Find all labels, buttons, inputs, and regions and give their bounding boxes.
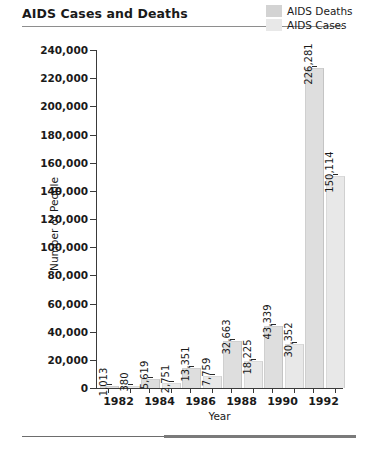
bar-value-label: 150,114: [324, 151, 335, 192]
y-tick-label: 220,000: [8, 72, 88, 84]
legend-swatch-icon: [266, 5, 282, 17]
x-tick-mark: [253, 388, 254, 393]
legend-label: AIDS Deaths: [287, 5, 353, 17]
x-axis-line: 198219841986198819901992: [96, 388, 343, 389]
bar-1988-cases[interactable]: 18,225: [244, 361, 263, 388]
plot-area: 1,0133805,6192,75113,3517,75932,66318,22…: [96, 50, 342, 388]
bar-value-label: 43,339: [262, 304, 273, 339]
bar-1992-cases[interactable]: 150,114: [326, 176, 345, 388]
y-tick-label: 240,000: [8, 44, 88, 56]
y-tick-mark: [90, 388, 96, 389]
bar-value-label: 7,759: [201, 358, 212, 387]
x-tick-mark: [212, 388, 213, 393]
y-tick-label: 0: [8, 382, 88, 394]
legend-item-2: AIDS Cases: [266, 18, 374, 32]
bar-group-1982: 1,013380: [100, 50, 138, 388]
x-tick-label-1990: 1990: [267, 395, 298, 408]
bar-1984-deaths[interactable]: 5,619: [141, 379, 160, 388]
bar-value-label: 30,352: [283, 323, 294, 358]
legend-label: AIDS Cases: [287, 19, 347, 31]
x-tick-mark: [335, 388, 336, 393]
bar-1990-cases[interactable]: 30,352: [285, 344, 304, 388]
legend-swatch-icon: [266, 19, 282, 31]
x-tick-mark: [231, 388, 232, 393]
x-tick-label-1988: 1988: [226, 395, 257, 408]
bar-1992-deaths[interactable]: 226,281: [305, 68, 324, 388]
x-tick-label-1992: 1992: [308, 395, 339, 408]
bar-1990-deaths[interactable]: 43,339: [264, 326, 283, 388]
page-title: AIDS Cases and Deaths: [22, 6, 188, 21]
x-tick-label-1982: 1982: [103, 395, 134, 408]
bar-group-1992: 226,281150,114: [305, 50, 343, 388]
x-tick-mark: [294, 388, 295, 393]
bar-value-label: 13,351: [180, 347, 191, 382]
x-tick-mark: [313, 388, 314, 393]
bar-group-1988: 32,66318,225: [223, 50, 261, 388]
legend-item-1: AIDS Deaths: [266, 4, 374, 18]
bar-1982-cases[interactable]: 380: [121, 386, 140, 388]
bar-1986-deaths[interactable]: 13,351: [182, 368, 201, 388]
bar-value-label: 1,013: [98, 367, 109, 396]
y-tick-label: 200,000: [8, 100, 88, 112]
x-tick-mark: [190, 388, 191, 393]
chart-legend: AIDS DeathsAIDS Cases: [266, 4, 374, 32]
bar-value-label: 2,751: [160, 365, 171, 394]
bar-value-label: 32,663: [221, 320, 232, 355]
footer-divider-left: [22, 436, 164, 437]
bar-value-label: 18,225: [242, 340, 253, 375]
bar-1988-deaths[interactable]: 32,663: [223, 341, 242, 388]
bar-group-1984: 5,6192,751: [141, 50, 179, 388]
x-tick-label-1984: 1984: [144, 395, 175, 408]
y-axis-title: Number of People: [48, 164, 60, 284]
bar-1986-cases[interactable]: 7,759: [203, 376, 222, 388]
bar-value-label: 5,619: [139, 361, 150, 390]
bar-value-label: 226,281: [303, 44, 314, 85]
y-tick-label: 20,000: [8, 354, 88, 366]
y-tick-label: 60,000: [8, 298, 88, 310]
bar-group-1990: 43,33930,352: [264, 50, 302, 388]
bar-group-1986: 13,3517,759: [182, 50, 220, 388]
bar-value-label: 380: [119, 373, 130, 392]
footer-divider-right: [164, 435, 356, 438]
x-tick-mark: [272, 388, 273, 393]
bar-1982-deaths[interactable]: 1,013: [100, 386, 119, 388]
y-tick-label: 180,000: [8, 129, 88, 141]
y-tick-label: 40,000: [8, 326, 88, 338]
x-axis-title: Year: [96, 410, 343, 422]
bar-1984-cases[interactable]: 2,751: [162, 383, 181, 388]
x-tick-label-1986: 1986: [185, 395, 216, 408]
